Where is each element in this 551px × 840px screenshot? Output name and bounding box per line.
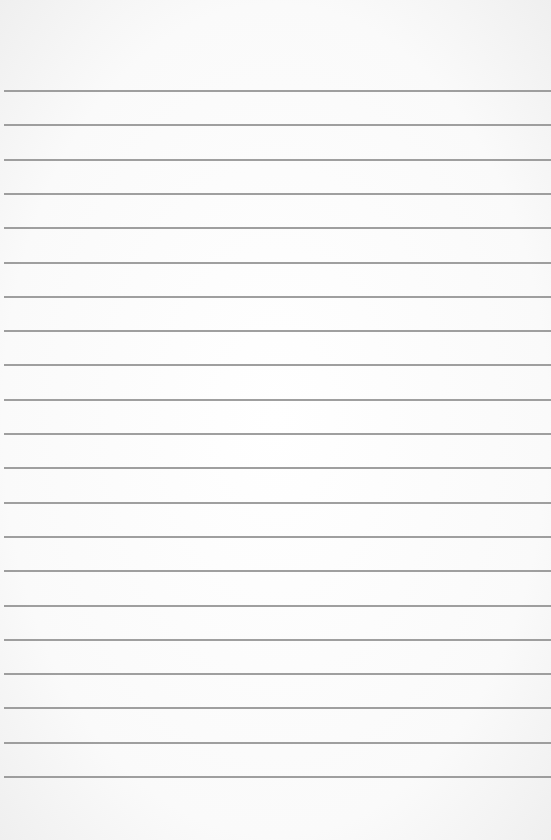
ruled-line — [4, 364, 551, 366]
ruled-line — [4, 296, 551, 298]
ruled-line — [4, 605, 551, 607]
ruled-line — [4, 124, 551, 126]
ruled-line — [4, 536, 551, 538]
ruled-line — [4, 570, 551, 572]
ruled-line — [4, 193, 551, 195]
ruled-line — [4, 227, 551, 229]
ruled-line — [4, 639, 551, 641]
ruled-line — [4, 707, 551, 709]
lined-paper — [0, 0, 551, 840]
ruled-line — [4, 467, 551, 469]
ruled-line — [4, 502, 551, 504]
ruled-line — [4, 159, 551, 161]
ruled-line — [4, 262, 551, 264]
ruled-line — [4, 673, 551, 675]
ruled-line — [4, 90, 551, 92]
ruled-line — [4, 433, 551, 435]
ruled-line — [4, 776, 551, 778]
ruled-line — [4, 742, 551, 744]
ruled-line — [4, 399, 551, 401]
ruled-line — [4, 330, 551, 332]
